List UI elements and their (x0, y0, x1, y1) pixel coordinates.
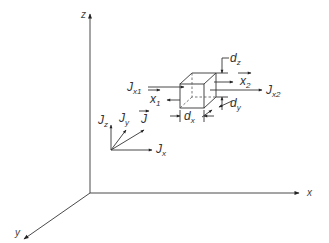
jz-label: Jz (97, 113, 108, 129)
j-total-label: J (140, 112, 148, 126)
dx-label: dx (184, 109, 196, 125)
cube-hidden-edge-diag (180, 97, 192, 108)
jx-label: Jx (155, 142, 167, 158)
x2-normal-label: x2 (239, 74, 251, 90)
jx1-label: Jx1 (126, 80, 141, 96)
x1-normal-label: x1 (149, 92, 160, 108)
dimension-annotations: dz dy dx (170, 51, 242, 125)
x-axis-label: x (306, 187, 313, 198)
j-total-arrow (111, 130, 144, 150)
y-axis-label: y (14, 227, 21, 238)
dz-label: dz (230, 51, 241, 67)
jy-label: Jy (118, 111, 130, 127)
vector-decomposition: Jz Jy J Jx (97, 111, 167, 158)
jx2-label: Jx2 (265, 83, 281, 99)
coordinate-axes: z x y (14, 9, 313, 239)
flux-arrows: Jx1 x1 x2 Jx2 (126, 73, 281, 108)
cube-top-face (180, 73, 216, 84)
jy-arrow (111, 130, 126, 150)
volume-element-cube (180, 73, 216, 108)
diagram-canvas: z x y Jz Jy J Jx Jx1 x1 (0, 0, 329, 243)
dy-label: dy (230, 96, 242, 112)
y-axis (24, 193, 90, 239)
z-axis-label: z (80, 9, 86, 20)
